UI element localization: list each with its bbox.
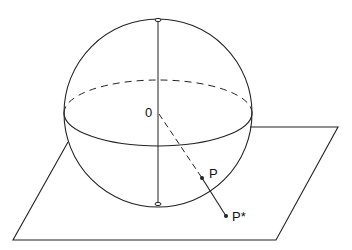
north-pole-marker [155,18,161,21]
south-pole-marker [155,202,161,205]
label-point-p: P [209,166,218,181]
label-center-o: 0 [145,105,152,120]
projection-line-solid [202,178,226,216]
point-p-star [224,214,228,218]
stereographic-projection-diagram: 0 P P* [0,0,352,250]
plane [13,127,338,240]
label-point-p-star: P* [232,209,246,224]
point-p [200,176,204,180]
